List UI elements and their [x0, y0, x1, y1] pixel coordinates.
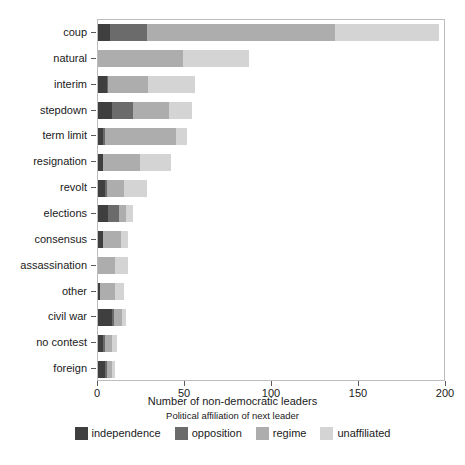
legend-label-unaffiliated: unaffiliated [337, 427, 390, 440]
segment-regime [114, 309, 123, 326]
segment-independence [98, 361, 105, 378]
legend-swatch-opposition [175, 427, 188, 440]
segment-independence [98, 102, 112, 119]
segment-unaffiliated [335, 24, 439, 41]
legend-swatch-regime [256, 427, 269, 440]
legend-items: independenceoppositionregimeunaffiliated [0, 427, 465, 440]
segment-opposition [110, 24, 147, 41]
bar-term-limit [98, 128, 187, 145]
legend-label-regime: regime [273, 427, 307, 440]
segment-unaffiliated [148, 76, 195, 93]
y-tick-label-revolt: revolt [60, 181, 87, 193]
segment-unaffiliated [124, 180, 147, 197]
segment-regime [100, 283, 116, 300]
y-tick-label-no-contest: no contest [36, 336, 87, 348]
y-tick-mark [91, 110, 96, 111]
segment-unaffiliated [183, 50, 249, 67]
segment-regime [105, 335, 112, 352]
y-tick-mark [91, 213, 96, 214]
bars-container [98, 20, 444, 380]
x-tick-mark [358, 381, 359, 386]
segment-regime [108, 76, 148, 93]
bar-natural [98, 50, 249, 67]
segment-unaffiliated [112, 335, 117, 352]
y-tick-label-consensus: consensus [34, 233, 87, 245]
x-axis-title: Number of non-democratic leaders [0, 395, 465, 408]
segment-unaffiliated [112, 361, 115, 378]
segment-independence [98, 24, 110, 41]
y-tick-mark [91, 342, 96, 343]
y-tick-label-coup: coup [63, 26, 87, 38]
y-tick-mark [91, 58, 96, 59]
bar-coup [98, 24, 439, 41]
segment-independence [98, 205, 108, 222]
y-tick-mark [91, 316, 96, 317]
segment-unaffiliated [115, 257, 127, 274]
y-tick-label-resignation: resignation [33, 155, 87, 167]
y-tick-label-foreign: foreign [53, 362, 87, 374]
y-tick-mark [91, 84, 96, 85]
y-tick-label-other: other [62, 285, 87, 297]
y-axis-labels: coupnaturalinterimstepdownterm limitresi… [0, 19, 87, 381]
x-tick-mark [271, 381, 272, 386]
segment-independence [98, 76, 107, 93]
bar-consensus [98, 231, 128, 248]
bar-assassination [98, 257, 128, 274]
segment-unaffiliated [140, 154, 171, 171]
y-tick-mark [91, 239, 96, 240]
y-tick-label-natural: natural [53, 52, 87, 64]
legend-swatch-unaffiliated [320, 427, 333, 440]
bar-stepdown [98, 102, 192, 119]
y-tick-mark [91, 291, 96, 292]
y-tick-mark [91, 161, 96, 162]
bar-elections [98, 205, 133, 222]
bar-revolt [98, 180, 147, 197]
y-tick-mark [91, 32, 96, 33]
bar-no-contest [98, 335, 117, 352]
legend-item-regime[interactable]: regime [256, 427, 307, 440]
segment-regime [98, 50, 183, 67]
legend-label-independence: independence [92, 427, 161, 440]
segment-unaffiliated [121, 231, 128, 248]
legend-title: Political affiliation of next leader [0, 410, 465, 422]
legend-item-unaffiliated[interactable]: unaffiliated [320, 427, 390, 440]
y-tick-label-assassination: assassination [20, 259, 87, 271]
segment-independence [98, 309, 112, 326]
segment-unaffiliated [115, 283, 124, 300]
chart-figure: coupnaturalinterimstepdownterm limitresi… [0, 0, 465, 465]
bar-interim [98, 76, 195, 93]
bar-other [98, 283, 124, 300]
segment-unaffiliated [176, 128, 186, 145]
x-tick-mark [97, 381, 98, 386]
chart-legend: Political affiliation of next leader ind… [0, 410, 465, 440]
segment-regime [98, 257, 115, 274]
y-tick-label-civil-war: civil war [48, 310, 87, 322]
y-tick-mark [91, 265, 96, 266]
segment-unaffiliated [169, 102, 192, 119]
x-tick-mark [184, 381, 185, 386]
segment-opposition [108, 205, 118, 222]
y-tick-label-interim: interim [54, 78, 87, 90]
segment-unaffiliated [126, 205, 133, 222]
legend-item-independence[interactable]: independence [75, 427, 161, 440]
y-tick-label-elections: elections [44, 207, 87, 219]
x-tick-mark [445, 381, 446, 386]
bar-civil-war [98, 309, 126, 326]
segment-regime [147, 24, 335, 41]
legend-swatch-independence [75, 427, 88, 440]
y-tick-mark [91, 135, 96, 136]
segment-unaffiliated [122, 309, 125, 326]
y-tick-mark [91, 187, 96, 188]
segment-regime [107, 180, 124, 197]
plot-panel [97, 19, 445, 381]
segment-regime [103, 154, 140, 171]
segment-independence [98, 180, 105, 197]
legend-item-opposition[interactable]: opposition [175, 427, 242, 440]
y-tick-label-stepdown: stepdown [40, 104, 87, 116]
segment-regime [133, 102, 170, 119]
segment-opposition [112, 102, 133, 119]
segment-regime [119, 205, 126, 222]
segment-regime [105, 128, 176, 145]
y-tick-label-term-limit: term limit [42, 129, 87, 141]
legend-label-opposition: opposition [192, 427, 242, 440]
